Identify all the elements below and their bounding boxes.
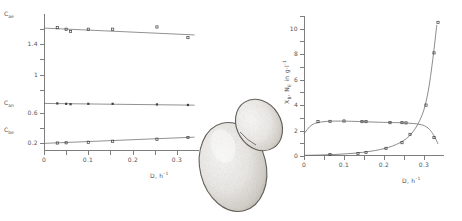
fit-curve-2	[44, 137, 195, 143]
fit-curve-0	[44, 28, 195, 35]
data-point	[65, 103, 67, 105]
left-x-label-0.1: 0.1	[76, 156, 100, 163]
data-point	[87, 141, 89, 143]
data-point	[437, 21, 439, 23]
right-y-label-2: 2	[280, 127, 298, 134]
left-x-label-0.3: 0.3	[165, 156, 189, 163]
data-point	[69, 103, 71, 105]
left-x-tick-0.3	[177, 151, 178, 155]
right-x-tick-minor-3	[404, 156, 405, 160]
data-point	[112, 140, 114, 142]
left-y-label-0.2: 0.2	[4, 139, 38, 146]
right-chart-panel: XB, NE in g·l-1 10 8 6 4 2 0	[276, 0, 462, 221]
left-x-axis-title: D, h-1	[150, 171, 169, 179]
data-point	[317, 121, 319, 123]
data-point	[156, 138, 158, 140]
right-x-tick-0.3	[424, 156, 425, 160]
right-x-axis-title: D, h-1	[402, 176, 421, 184]
data-point	[187, 36, 189, 38]
left-x-tick-0	[44, 151, 45, 155]
data-point	[69, 30, 71, 32]
left-y-label-1.4: 1.4	[4, 40, 38, 47]
right-y-label-6: 6	[280, 76, 298, 83]
right-x-label-0.2: 0.2	[372, 161, 396, 168]
data-point	[87, 103, 89, 105]
right-x-label-0.3: 0.3	[412, 161, 436, 168]
right-plot-area: 10 8 6 4 2 0 0 0.1 0.2 0.3 D, h-1	[304, 16, 444, 156]
left-x-tick-minor-3	[155, 151, 156, 155]
series-label-c-ae: Cae	[4, 10, 14, 19]
left-x-label-0: 0	[32, 156, 56, 163]
left-x-tick-0.1	[88, 151, 89, 155]
right-x-label-0: 0	[292, 161, 316, 168]
left-x-label-0.2: 0.2	[121, 156, 145, 163]
data-point	[112, 28, 114, 30]
figure-root: Cae Can Cbe 1.4 1 0.6 0.2	[0, 0, 462, 221]
data-point	[112, 103, 114, 105]
left-plot-area: 1.4 1 0.6 0.2 0 0.1 0.2 0.3 D, h-1	[44, 14, 199, 151]
data-point	[401, 142, 403, 144]
data-point	[409, 133, 411, 135]
data-point	[56, 102, 58, 104]
data-point	[156, 26, 158, 28]
data-point	[433, 52, 435, 54]
left-x-tick-minor-1	[66, 151, 67, 155]
right-y-label-0: 0	[280, 152, 298, 159]
fit-curve-1	[304, 25, 437, 155]
right-y-label-10: 10	[280, 25, 298, 32]
data-point	[87, 28, 89, 30]
data-point	[425, 104, 427, 106]
series-label-c-an: Can	[4, 99, 14, 108]
right-y-label-4: 4	[280, 101, 298, 108]
left-y-label-1: 1	[4, 71, 38, 78]
budding-yeast-illustration	[196, 84, 284, 219]
data-point	[56, 27, 58, 29]
right-x-tick-0.1	[344, 156, 345, 160]
left-y-label-0.6: 0.6	[4, 109, 38, 116]
right-x-tick-0.2	[384, 156, 385, 160]
right-x-tick-minor-2	[364, 156, 365, 160]
data-point	[365, 151, 367, 153]
data-point	[357, 152, 359, 154]
left-chart-panel: Cae Can Cbe 1.4 1 0.6 0.2	[0, 0, 215, 221]
left-x-tick-minor-2	[110, 151, 111, 155]
data-point	[156, 103, 158, 105]
data-point	[187, 104, 189, 106]
data-point	[433, 136, 435, 138]
right-x-tick-0	[304, 156, 305, 160]
left-chart-graphics	[44, 14, 199, 151]
right-x-tick-minor-1	[324, 156, 325, 160]
right-x-label-0.1: 0.1	[332, 161, 356, 168]
right-y-label-8: 8	[280, 50, 298, 57]
right-chart-graphics	[304, 16, 444, 156]
left-x-tick-0.2	[133, 151, 134, 155]
series-label-c-be: Cbe	[4, 126, 14, 135]
